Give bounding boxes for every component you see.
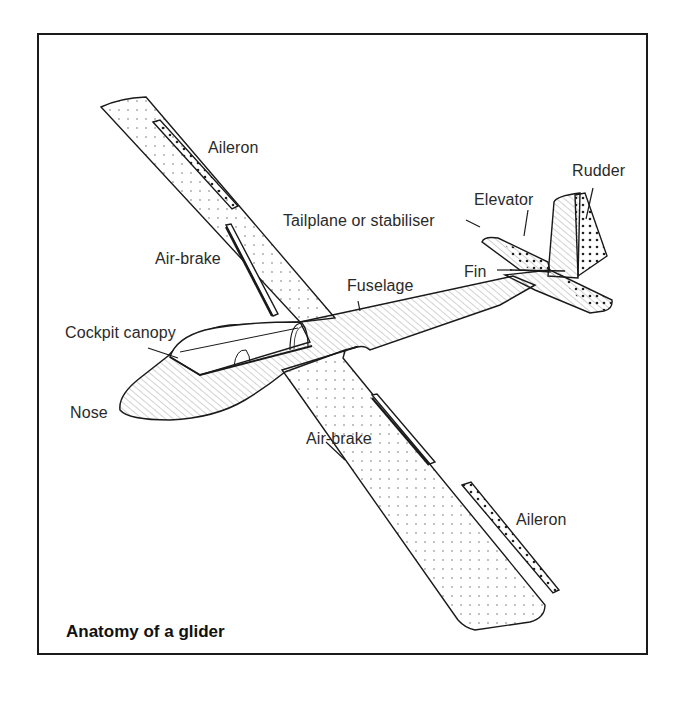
upper-wing: [101, 97, 335, 322]
glider-illustration: [0, 0, 690, 703]
label-air-brake-lower: Air-brake: [306, 431, 372, 447]
lower-wing: [282, 347, 559, 631]
label-aileron-lower: Aileron: [516, 512, 567, 528]
label-aileron-upper: Aileron: [208, 140, 259, 156]
label-cockpit-canopy: Cockpit canopy: [65, 325, 176, 341]
label-rudder: Rudder: [572, 163, 625, 179]
figure-caption: Anatomy of a glider: [66, 622, 225, 642]
label-fin: Fin: [464, 264, 487, 280]
label-elevator: Elevator: [474, 192, 534, 208]
rudder: [575, 193, 607, 276]
label-nose: Nose: [70, 405, 108, 421]
label-fuselage: Fuselage: [347, 278, 414, 294]
label-air-brake-upper: Air-brake: [155, 251, 221, 267]
label-tailplane: Tailplane or stabiliser: [283, 213, 435, 229]
